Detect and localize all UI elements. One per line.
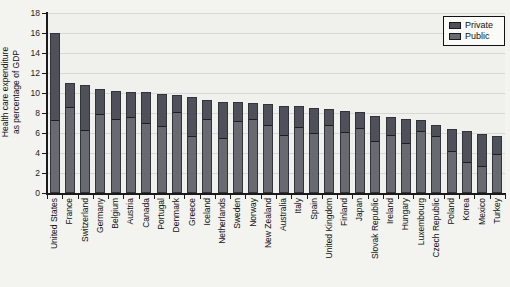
public-segment <box>417 131 425 192</box>
private-segment <box>234 103 242 121</box>
x-tick-mark <box>184 195 185 199</box>
x-label: Australia <box>278 198 289 284</box>
y-tick-label: 10 <box>14 88 40 98</box>
public-segment <box>295 127 303 192</box>
private-segment <box>493 137 501 154</box>
y-tick-mark <box>42 53 46 54</box>
public-segment <box>402 143 410 192</box>
x-label: Norway <box>248 198 259 284</box>
bar-japan <box>355 112 365 193</box>
x-tick-mark <box>444 195 445 199</box>
x-label: Belgium <box>110 198 121 284</box>
public-segment <box>173 112 181 192</box>
private-swatch-icon <box>449 22 461 29</box>
y-tick-label: 18 <box>14 8 40 18</box>
x-label: Austria <box>125 198 136 284</box>
private-segment <box>341 112 349 132</box>
public-segment <box>188 136 196 192</box>
x-tick-mark <box>78 195 79 199</box>
x-label: Iceland <box>202 198 213 284</box>
public-segment <box>387 135 395 192</box>
private-segment <box>387 118 395 135</box>
x-tick-mark <box>322 195 323 199</box>
bar-new-zealand <box>263 104 273 193</box>
x-tick-mark <box>261 195 262 199</box>
private-segment <box>478 135 486 166</box>
public-swatch-icon <box>449 33 461 40</box>
private-segment <box>417 121 425 131</box>
y-axis-title-line1: Health care expenditure <box>0 12 11 172</box>
public-segment <box>96 114 104 192</box>
bar-germany <box>95 89 105 193</box>
x-tick-mark <box>383 195 384 199</box>
private-segment <box>280 107 288 135</box>
public-segment <box>325 125 333 192</box>
x-label: Japan <box>354 198 365 284</box>
x-label: Czech Republic <box>431 198 442 284</box>
x-tick-mark <box>47 195 48 199</box>
private-segment <box>356 113 364 128</box>
private-segment <box>432 126 440 136</box>
x-label: Netherlands <box>217 198 228 284</box>
private-segment <box>219 103 227 138</box>
bar-poland <box>447 129 457 193</box>
public-segment <box>66 107 74 192</box>
bar-luxembourg <box>416 120 426 193</box>
public-segment <box>280 135 288 192</box>
public-segment <box>341 132 349 192</box>
bar-korea <box>462 131 472 193</box>
x-label: United Kingdom <box>324 198 335 284</box>
public-segment <box>219 138 227 192</box>
x-label: Canada <box>141 198 152 284</box>
public-segment <box>478 166 486 192</box>
y-tick-label: 14 <box>14 48 40 58</box>
x-label: Poland <box>446 198 457 284</box>
y-tick-label: 6 <box>14 128 40 138</box>
x-tick-mark <box>307 195 308 199</box>
x-label: France <box>64 198 75 284</box>
bar-czech-republic <box>431 125 441 193</box>
private-segment <box>112 92 120 119</box>
bar-canada <box>141 92 151 193</box>
bar-denmark <box>172 95 182 193</box>
public-segment <box>51 120 59 192</box>
public-segment <box>81 130 89 192</box>
x-tick-mark <box>276 195 277 199</box>
x-label: Spain <box>309 198 320 284</box>
legend: Private Public <box>443 16 505 46</box>
public-segment <box>127 117 135 192</box>
private-segment <box>448 130 456 151</box>
x-label: Korea <box>461 198 472 284</box>
private-segment <box>463 132 471 162</box>
bar-iceland <box>202 100 212 193</box>
y-tick-label: 16 <box>14 28 40 38</box>
y-tick-label: 4 <box>14 148 40 158</box>
x-label: New Zealand <box>263 198 274 284</box>
bar-united-states <box>50 33 60 193</box>
bar-spain <box>309 108 319 193</box>
private-segment <box>158 95 166 126</box>
public-segment <box>234 121 242 192</box>
x-tick-mark <box>474 195 475 199</box>
bar-australia <box>279 106 289 193</box>
bar-hungary <box>401 119 411 193</box>
x-tick-mark <box>429 195 430 199</box>
legend-row-private: Private <box>449 20 500 31</box>
x-tick-mark <box>245 195 246 199</box>
public-segment <box>264 125 272 192</box>
y-tick-mark <box>42 93 46 94</box>
x-label: Sweden <box>232 198 243 284</box>
x-label: Slovak Republic <box>370 198 381 284</box>
bar-portugal <box>157 94 167 193</box>
y-tick-label: 0 <box>14 188 40 198</box>
x-label: Greece <box>187 198 198 284</box>
x-tick-mark <box>139 195 140 199</box>
x-tick-mark <box>200 195 201 199</box>
y-tick-mark <box>42 73 46 74</box>
public-segment <box>493 154 501 192</box>
private-segment <box>371 117 379 141</box>
private-segment <box>66 84 74 107</box>
gridline <box>47 73 505 74</box>
y-tick-mark <box>42 133 46 134</box>
private-segment <box>173 96 181 112</box>
